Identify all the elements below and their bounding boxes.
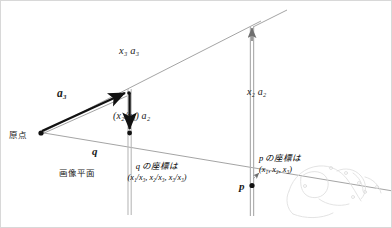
label-x3a3: x₃ a₃: [119, 45, 139, 56]
caption-p-coordinates: p の座標は (x₁, x₂, x₃): [259, 153, 363, 175]
origin-dot: [38, 130, 43, 135]
label-a3: a₃: [57, 87, 67, 99]
caption-q-line1: q の座標は: [105, 161, 209, 172]
caption-q-coordinates: q の座標は (x₁/x₃, x₂/x₃, x₃/x₃): [105, 161, 209, 183]
label-x2-over-x3-a2: (x₂/x₃) a₂: [113, 111, 150, 122]
a3-tip-dot: [127, 91, 131, 95]
p-dot: [249, 183, 254, 188]
caption-q-line2: (x₁/x₃, x₂/x₃, x₃/x₃): [105, 172, 209, 183]
q-dot: [127, 131, 132, 136]
caption-p-line2: (x₁, x₂, x₃): [259, 164, 363, 175]
label-q-point: q: [92, 146, 98, 158]
label-origin: 原点: [9, 131, 27, 140]
label-image-plane: 画像平面: [59, 169, 95, 178]
ray-extension-line: [253, 10, 287, 27]
label-x2a2: x₂ a₂: [247, 87, 266, 98]
diagram-svg: [1, 1, 392, 228]
figure-canvas: x₃ a₃ a₃ x₂ a₂ (x₂/x₃) a₂ 原点 q 画像平面 p q …: [0, 0, 392, 228]
caption-p-line1: p の座標は: [259, 153, 363, 164]
label-p-point: p: [239, 181, 245, 193]
